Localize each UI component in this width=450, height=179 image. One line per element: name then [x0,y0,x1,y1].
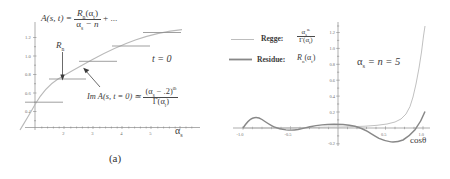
legend-label-regge: Regge: [261,35,283,43]
y-tick-label-b-6: -0.2 [328,141,335,146]
equation-im-num-open: (α [145,87,152,96]
x-tick-label-a-3: 5 [149,131,152,136]
alpha-condition-label-b: αs = n = 5 [357,56,400,67]
figure-container: 1.2 1.0 0.8 0.6 0.4 [0,0,450,179]
panel-b: 1.2 1.0 0.8 0.6 0.4 0.2 -0.2 [225,0,450,179]
equation-im-den-gamma: Γ(α [153,97,165,106]
residue-label-a: Rn [56,41,64,50]
legend-formula-regge: αsαt Γ(αt) [297,29,315,45]
equation-im-den-close: ) [166,97,169,106]
legend-regge-num-exp-sub: t [309,29,310,32]
x-tick-label-a-2: 4 [120,131,123,136]
equation-im-fraction: (αs − .2)αt Γ(αt) [143,88,178,107]
alpha-condition-rhs: = n = 5 [365,56,400,67]
x-tick-label-b-1: -0.5 [285,132,293,137]
y-tick-label-a-3: 0.6 [25,91,31,96]
equation-amplitude-num-arg-close: ) [95,8,98,18]
y-tick-label-a-0: 1.2 [25,35,31,40]
panel-a: 1.2 1.0 0.8 0.6 0.4 [0,0,225,179]
y-tick-label-b-1: 1.0 [330,46,336,51]
t-value-label-a: t = 0 [152,54,172,65]
equation-amplitude-tail: + ... [103,13,117,23]
residue-label-sub: n [62,46,65,52]
legend-regge-den-gamma: Γ(α [299,36,309,44]
legend-label-residue: Residue: [257,56,285,64]
y-tick-label-b-0: 1.2 [330,30,336,35]
legend-formula-residue: Rn(αt) [297,54,315,62]
y-tick-label-a-2: 0.8 [25,72,31,77]
y-tick-label-b-2: 0.8 [330,62,336,67]
legend-regge-fraction: αsαt Γ(αt) [297,29,315,45]
x-axis-label-a-sub: s [180,131,182,138]
curve-regge-a [20,30,182,130]
rn-arrow [60,52,64,81]
equation-amplitude-lhs: A(s, t) = [41,13,72,23]
equation-im-num-exp-sub: t [175,87,176,91]
legend-regge-den-close: ) [310,36,312,44]
y-tick-label-a-1: 1.0 [25,54,31,59]
y-tick-label-b-3: 0.6 [330,78,336,83]
equation-amplitude-den-rest: − n [83,19,98,29]
equation-amplitude-fraction: Rn(αt) αs − n [74,9,100,29]
legend-residue-arg-close: ) [313,53,316,62]
equation-im-lhs: Im A(s, t = 0) ≃ [87,92,141,101]
equation-im-amplitude-a: Im A(s, t = 0) ≃ (αs − .2)αt Γ(αt) [87,88,178,107]
x-axis-label-a: αs [175,126,183,137]
x-axis-label-b: cosθ [410,136,426,145]
x-tick-label-a-0: 2 [62,131,65,136]
y-tick-label-b-5: 0.2 [330,110,336,115]
x-tick-label-b-0: -1.0 [237,132,245,137]
y-tick-label-b-4: 0.4 [330,94,336,99]
equation-amplitude-a: A(s, t) = Rn(αt) αs − n + ... [41,9,117,29]
ima-arrow [83,68,100,87]
x-tick-label-b-2: 0.5 [381,132,387,137]
panel-b-plot: 1.2 1.0 0.8 0.6 0.4 0.2 -0.2 [225,0,450,179]
panel-caption-a: (a) [95,152,135,164]
x-tick-label-a-1: 3 [91,131,94,136]
equation-im-num-rest: − .2) [155,87,173,96]
